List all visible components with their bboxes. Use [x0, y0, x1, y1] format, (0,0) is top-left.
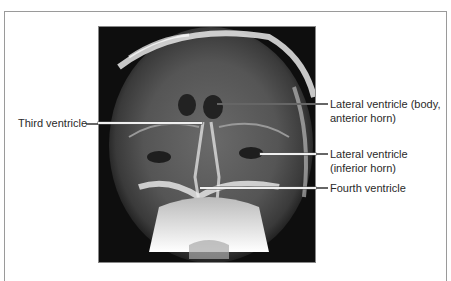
label-line: Lateral ventricle (body,	[330, 97, 440, 111]
label-lateral-ventricle-inferior: Lateral ventricle (inferior horn)	[330, 147, 408, 175]
leader-lateral-inferior-on-image	[260, 153, 316, 155]
leader-lateral-inferior	[316, 153, 328, 155]
skull-xray-image	[98, 26, 316, 263]
leader-third	[86, 123, 98, 125]
label-lateral-ventricle-body: Lateral ventricle (body, anterior horn)	[330, 97, 440, 125]
label-line: Third ventricle	[18, 116, 87, 130]
xray-drawing	[99, 27, 316, 263]
leader-third-on-image	[98, 122, 202, 124]
label-line: Lateral ventricle	[330, 147, 408, 161]
label-line: (inferior horn)	[330, 161, 408, 175]
leader-lateral-body-ext	[316, 103, 328, 105]
label-line: anterior horn)	[330, 111, 440, 125]
label-fourth-ventricle: Fourth ventricle	[330, 181, 406, 195]
label-line: Fourth ventricle	[330, 181, 406, 195]
leader-lateral-body	[217, 103, 317, 105]
leader-fourth-on-image	[200, 187, 316, 189]
label-third-ventricle: Third ventricle	[18, 116, 87, 130]
leader-fourth	[316, 187, 328, 189]
